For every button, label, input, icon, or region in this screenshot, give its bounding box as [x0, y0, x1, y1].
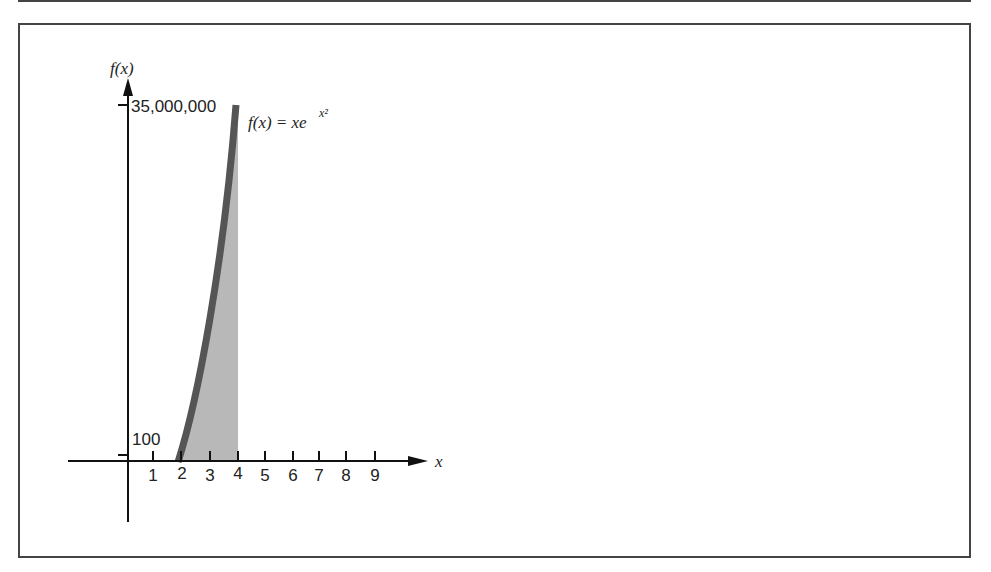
- x-tick-label: 4: [233, 464, 242, 483]
- function-label-exponent: x²: [318, 106, 328, 120]
- y-axis-arrow: [123, 78, 133, 96]
- x-tick-label: 8: [341, 466, 350, 485]
- x-tick-label: 5: [260, 466, 269, 485]
- x-tick-label: 2: [177, 464, 186, 483]
- x-axis-label: x: [434, 452, 443, 471]
- x-tick-label: 6: [288, 466, 297, 485]
- x-tick-label: 7: [314, 466, 323, 485]
- y-axis-label: f(x): [110, 59, 134, 78]
- x-tick-label: 1: [148, 466, 157, 485]
- x-tick-label: 9: [370, 466, 379, 485]
- y-tick-label-35m: 35,000,000: [131, 97, 216, 116]
- y-tick-label-100: 100: [132, 430, 160, 449]
- x-tick-label: 3: [205, 466, 214, 485]
- function-label: f(x) = xe: [248, 113, 307, 132]
- chart: 1 2 3 4 5 6 7 8 9 100 35,000,000 f(x) x …: [0, 0, 991, 572]
- x-axis-arrow: [408, 456, 428, 466]
